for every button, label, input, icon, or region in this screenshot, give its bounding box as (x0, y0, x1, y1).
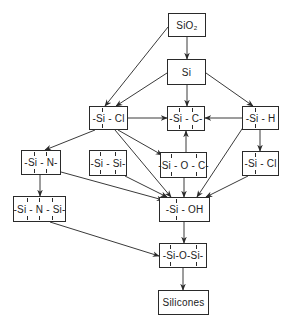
bond-tick (102, 124, 103, 128)
bond-tick (255, 124, 256, 128)
bond-tick (39, 198, 40, 202)
bond-tick (100, 170, 101, 174)
node-sioh: -Si - OH (159, 197, 210, 222)
node-sih: -Si - H (242, 106, 279, 130)
bond-tick (255, 170, 256, 174)
bond-tick (192, 108, 193, 112)
arrow-sin-to-sioh (61, 172, 163, 200)
node-sio2: SiO₂ (168, 13, 206, 37)
bond-tick (102, 108, 103, 112)
bond-tick (196, 154, 197, 158)
node-si: Si (167, 59, 206, 85)
bond-tick (176, 199, 177, 203)
node-label: -Si-O-Si- (163, 250, 204, 261)
node-label: Silicones (163, 297, 205, 308)
arrow-sicl-to-sin (45, 130, 95, 150)
arrow-sio2-to-sicl (105, 27, 168, 106)
bond-tick (192, 125, 193, 129)
node-label: -Si - Si- (90, 158, 125, 169)
node-label: -Si - H (246, 113, 276, 124)
node-sicl2: -Si - Cl (242, 151, 279, 176)
bond-tick (255, 153, 256, 157)
arrow-sisi-to-sioh (125, 176, 167, 197)
bond-tick (196, 245, 197, 249)
bond-tick (115, 170, 116, 174)
node-label: Si (182, 67, 191, 78)
node-label: -Si - Cl (92, 113, 124, 124)
bond-tick (170, 245, 171, 249)
bond-tick (255, 108, 256, 112)
bond-tick (34, 169, 35, 173)
arrow-si-to-sih (206, 73, 253, 106)
bond-tick (171, 172, 172, 176)
node-label: -Si - OH (166, 204, 204, 215)
bond-tick (46, 169, 47, 173)
bond-tick (196, 172, 197, 176)
bond-tick (34, 152, 35, 156)
node-sic: -Si - C- (167, 106, 205, 131)
bond-tick (46, 152, 47, 156)
bond-tick (196, 262, 197, 266)
bond-tick (115, 152, 116, 156)
bond-tick (52, 216, 53, 220)
bond-tick (171, 154, 172, 158)
bond-tick (100, 152, 101, 156)
bond-tick (179, 125, 180, 129)
node-sin: -Si - N- (21, 150, 61, 175)
node-sisi: -Si - Si- (89, 150, 127, 176)
node-sioc: -Si - O - C- (160, 152, 207, 178)
bond-tick (27, 216, 28, 220)
bond-tick (52, 198, 53, 202)
node-siosi: -Si-O-Si- (159, 243, 207, 268)
arrow-sicl2-to-sioh (206, 176, 248, 197)
node-label: -Si - N- (24, 157, 57, 168)
node-label: -Si - O - C- (158, 160, 209, 171)
bond-tick (27, 198, 28, 202)
bond-tick (170, 262, 171, 266)
node-label: -Si - N - Si- (13, 204, 65, 215)
bond-tick (39, 216, 40, 220)
arrow-si-to-sicl (116, 73, 167, 106)
node-sicl: -Si - Cl (89, 106, 128, 130)
node-silicones: Silicones (158, 290, 209, 315)
arrow-sinsi-to-siosi (50, 222, 159, 256)
node-label: SiO₂ (176, 20, 197, 31)
node-label: -Si - C- (169, 113, 202, 124)
bond-tick (176, 216, 177, 220)
node-label: -Si - Cl (244, 158, 276, 169)
bond-tick (179, 108, 180, 112)
